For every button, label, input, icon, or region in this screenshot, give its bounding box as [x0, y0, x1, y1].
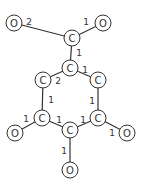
atom-element-label: O: [10, 18, 18, 29]
atom-node: C: [35, 72, 51, 88]
molecule-diagram: 211211111111 OOCCCCCCCOOO: [0, 0, 145, 191]
bond-order-label: 1: [89, 96, 95, 106]
atom-node: C: [62, 60, 78, 76]
atom-node: O: [6, 15, 22, 31]
atom-element-label: O: [123, 128, 131, 139]
bond-order-label: 1: [83, 17, 89, 27]
bond-order-label: 1: [76, 48, 82, 58]
atom-element-label: C: [69, 33, 76, 44]
bond-order-label: 2: [55, 76, 61, 86]
atom-element-label: C: [39, 113, 46, 124]
atom-node: O: [95, 15, 111, 31]
bond-order-label: 1: [48, 95, 54, 105]
atom-element-label: C: [40, 75, 47, 86]
atom-node: O: [119, 125, 135, 141]
atom-element-label: C: [67, 125, 74, 136]
bond-order-label: 1: [23, 114, 29, 124]
atom-node: C: [64, 30, 80, 46]
atom-node: C: [90, 110, 106, 126]
atom-node: O: [7, 125, 23, 141]
atom-node: C: [34, 110, 50, 126]
atom-element-label: C: [95, 113, 102, 124]
atom-node: C: [62, 122, 78, 138]
bond-order-label: 1: [109, 128, 115, 138]
bond-order-label: 1: [80, 115, 86, 125]
bond-order-label: 2: [26, 17, 32, 27]
bond-line: [14, 23, 72, 38]
bond-order-label: 1: [56, 115, 62, 125]
bond-order-label: 1: [82, 65, 88, 75]
bond-order-label: 1: [61, 146, 67, 156]
atom-element-label: C: [67, 63, 74, 74]
atom-node: C: [90, 72, 106, 88]
atom-element-label: O: [11, 128, 19, 139]
atom-element-label: O: [99, 18, 107, 29]
atom-node: O: [62, 162, 78, 178]
atom-element-label: O: [66, 165, 74, 176]
atom-element-label: C: [95, 75, 102, 86]
